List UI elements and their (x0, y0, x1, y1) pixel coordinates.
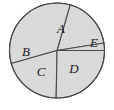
sector-d (56, 51, 104, 98)
sector-label-b: B (22, 44, 30, 59)
pie-sector-figure: ABCDE (0, 0, 114, 110)
sector-label-c: C (37, 64, 46, 79)
sector-label-a: A (56, 21, 65, 36)
sector-label-d: D (68, 61, 79, 76)
pie-diagram-svg: ABCDE (0, 0, 114, 110)
sector-label-e: E (89, 35, 98, 50)
